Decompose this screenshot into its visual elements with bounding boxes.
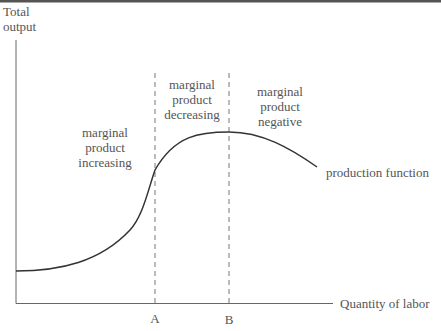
region-line: increasing: [50, 155, 160, 170]
region-line: marginal: [50, 125, 160, 140]
y-axis-label: Total output: [3, 4, 36, 34]
region-line: marginal: [240, 84, 320, 99]
region-line: decreasing: [152, 107, 232, 122]
y-axis-label-line1: Total: [3, 4, 36, 19]
region-increasing-label: marginal product increasing: [50, 125, 160, 170]
region-line: product: [240, 99, 320, 114]
region-line: product: [152, 92, 232, 107]
tick-label-b: B: [223, 312, 235, 327]
tick-label-a: A: [149, 311, 161, 326]
region-negative-label: marginal product negative: [240, 84, 320, 129]
top-rule: [0, 0, 441, 3]
region-line: product: [50, 140, 160, 155]
y-axis-label-line2: output: [3, 19, 36, 34]
region-line: marginal: [152, 77, 232, 92]
region-line: negative: [240, 114, 320, 129]
x-axis-label: Quantity of labor: [340, 296, 430, 311]
curve-label: production function: [326, 165, 429, 180]
region-decreasing-label: marginal product decreasing: [152, 77, 232, 122]
